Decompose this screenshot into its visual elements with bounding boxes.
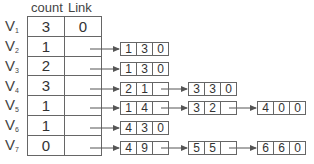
edge-node-v5-3: 400 [257, 101, 306, 115]
edge-node-v6-1: 430 [120, 121, 169, 135]
edge-node-v7-2: 55 [188, 141, 237, 155]
edge-node-v5-2: 32 [188, 101, 237, 115]
edge-node-v5-1: 14 [120, 101, 169, 115]
edge-node-v3-1: 130 [120, 62, 169, 76]
edge-node-v4-2: 330 [188, 82, 237, 96]
edge-node-v7-1: 49 [120, 141, 169, 155]
edge-node-v2-1: 130 [120, 42, 169, 56]
edge-node-v4-1: 21 [120, 82, 169, 96]
edge-node-v7-3: 660 [257, 141, 306, 155]
